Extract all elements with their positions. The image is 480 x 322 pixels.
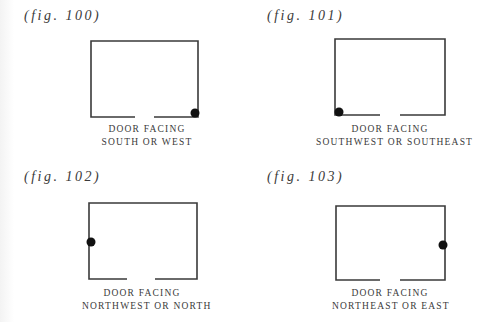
room-plan-103	[0, 0, 480, 322]
marker-dot-icon	[439, 241, 448, 250]
room-walls	[336, 206, 445, 280]
caption-line-2: NORTHEAST OR EAST	[332, 300, 448, 313]
figure-caption: DOOR FACING NORTHEAST OR EAST	[332, 287, 448, 313]
caption-line-1: DOOR FACING	[332, 287, 448, 300]
